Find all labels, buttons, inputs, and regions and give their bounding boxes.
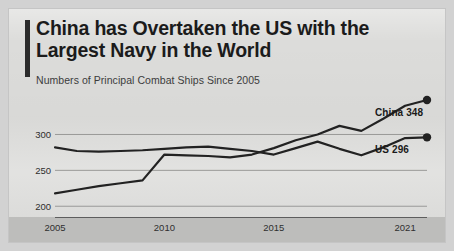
page-title: China has Overtaken the US with the Larg… [36,18,434,61]
x-axis-line [55,217,427,218]
x-axis-tick-label: 2010 [154,222,175,233]
x-axis-tick-label: 2015 [263,222,284,233]
x-axis-tick-label: 2021 [395,222,416,233]
series-line-us [55,137,427,155]
title-accent-bar [25,20,30,77]
chart-subtitle: Numbers of Principal Combat Ships Since … [36,74,434,87]
x-axis-band [9,217,445,242]
endpoint-marker-us [423,133,431,141]
screenshot-root: China has Overtaken the US with the Larg… [0,0,454,251]
x-axis-tick-label: 2005 [44,222,65,233]
chart-card: China has Overtaken the US with the Larg… [9,9,445,242]
endpoint-marker-china [423,96,431,104]
series-label-us: US 296 [375,144,409,155]
series-label-china: China 348 [375,107,423,118]
series-line-china [55,100,427,193]
